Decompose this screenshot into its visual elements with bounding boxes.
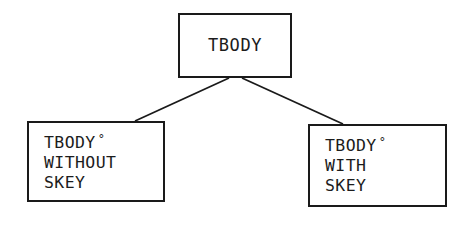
node-tbody-with-skey: TBODY° WITH SKEY [308,124,447,207]
node-tbody-without-skey-line-1: TBODY° [44,133,116,153]
node-tbody-without-skey-line-1-text: TBODY [44,133,96,152]
node-tbody-with-skey-line-1-text: TBODY [325,136,377,155]
node-tbody-root-label: TBODY [180,35,290,55]
node-tbody-with-skey-line-2: WITH [325,156,384,176]
degree-icon: ° [379,135,387,149]
edge-root-to-tbody-without-skey [135,78,229,121]
node-tbody-root: TBODY [178,13,292,78]
node-tbody-without-skey-line-2: WITHOUT [44,153,116,173]
node-tbody-with-skey-line-1: TBODY° [325,136,384,156]
edge-root-to-tbody-with-skey [242,78,343,124]
node-tbody-with-skey-line-3: SKEY [325,176,384,196]
node-tbody-without-skey: TBODY° WITHOUT SKEY [27,121,165,202]
node-tbody-without-skey-label: TBODY° WITHOUT SKEY [44,133,116,193]
diagram-canvas: TBODY TBODY° WITHOUT SKEY TBODY° WITH SK… [0,0,473,226]
node-tbody-with-skey-label: TBODY° WITH SKEY [325,136,384,196]
degree-icon: ° [98,132,106,146]
node-tbody-without-skey-line-3: SKEY [44,173,116,193]
